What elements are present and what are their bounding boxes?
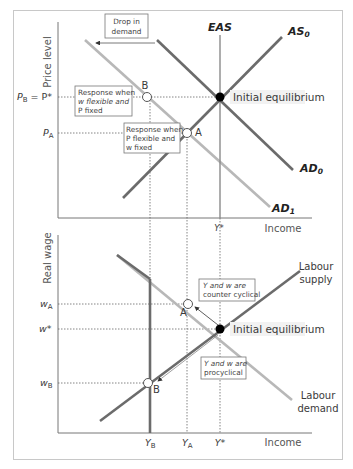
wstar-tick-label: w* — [39, 323, 52, 334]
point-b-label-bottom: B — [153, 384, 160, 395]
wb-tick-label: wB — [40, 377, 53, 390]
counter-line1: Y and w are — [203, 281, 247, 290]
ystar-tick-top: Y* — [214, 223, 223, 233]
point-a-label-top: A — [195, 127, 202, 138]
initial-eq-label-top: Initial equilibrium — [233, 91, 325, 103]
resp-p-line3: w fixed — [126, 143, 152, 152]
labour-supply-label-2: supply — [300, 274, 333, 285]
bottom-y-axis-title: Real wage — [42, 232, 53, 284]
drop-line2: demand — [112, 27, 142, 36]
pro-line2: procyclical — [204, 368, 243, 377]
initial-equilibrium-point-top — [216, 93, 225, 102]
resp-w-line3: P fixed — [78, 106, 103, 115]
point-b-label-top: B — [142, 80, 149, 91]
bottom-panel: Real wage Income Y and w are counter cyc… — [39, 232, 339, 450]
point-a-label-bottom: A — [180, 307, 187, 318]
wa-tick-label: wA — [40, 298, 53, 311]
as0-label: AS0 — [287, 25, 310, 39]
ad1-label: AD1 — [271, 202, 295, 216]
ad0-label: AD0 — [299, 162, 323, 176]
drop-line1: Drop in — [113, 17, 140, 26]
point-a-top — [183, 129, 192, 138]
ystar-tick-bottom: Y* — [215, 437, 226, 448]
top-x-axis-title: Income — [265, 223, 302, 234]
initial-equilibrium-point-bottom — [216, 325, 225, 334]
pb-pstar-tick-label: PB = P* — [17, 91, 52, 104]
as0-curve — [123, 37, 282, 198]
labour-demand-rigid-segment — [117, 255, 150, 279]
labour-demand-label-1: Labour — [301, 390, 337, 401]
labour-demand-label-2: demand — [297, 403, 338, 414]
bottom-x-axis-title: Income — [265, 437, 302, 448]
point-b-top — [143, 93, 152, 102]
resp-w-line2: w flexible and — [78, 97, 129, 106]
pa-tick-label: PA — [43, 127, 54, 140]
resp-w-line1: Response when — [78, 88, 135, 97]
eas-label: EAS — [208, 21, 232, 34]
resp-p-line2: P flexible and — [126, 134, 175, 143]
labour-supply-label-1: Labour — [299, 261, 335, 272]
initial-eq-label-bottom: Initial equilibrium — [233, 323, 325, 335]
macro-diagram: Price level Income Drop in demand Respon… — [0, 0, 353, 469]
top-panel: Price level Income Drop in demand Respon… — [17, 14, 325, 433]
resp-p-line1: Response when — [126, 125, 183, 134]
pro-line1: Y and w are — [204, 359, 248, 368]
point-b-bottom — [144, 379, 153, 388]
ya-tick-label: YA — [182, 437, 193, 450]
yb-tick-label: YB — [145, 437, 156, 450]
top-y-axis-title: Price level — [42, 36, 53, 87]
counter-line2: counter cyclical — [203, 290, 260, 299]
